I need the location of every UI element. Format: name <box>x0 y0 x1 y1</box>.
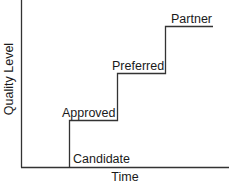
quality-step-line <box>70 27 214 168</box>
step-label-candidate: Candidate <box>73 152 130 166</box>
x-axis-title: Time <box>111 170 138 184</box>
step-label-partner: Partner <box>171 12 212 26</box>
step-chart: Candidate Approved Preferred Partner Tim… <box>0 0 229 185</box>
step-label-preferred: Preferred <box>112 59 164 73</box>
y-axis-title: Quality Level <box>2 43 16 115</box>
step-label-approved: Approved <box>62 106 116 120</box>
